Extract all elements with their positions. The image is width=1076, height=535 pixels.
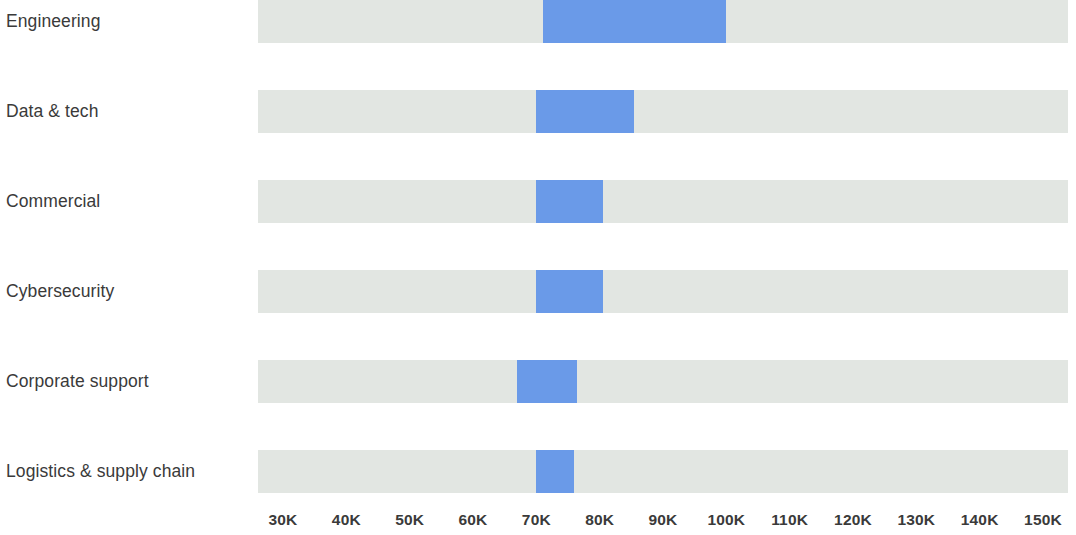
x-axis-tick-label: 90K: [648, 511, 677, 529]
x-axis-tick-label: 110K: [771, 511, 808, 529]
category-label: Data & tech: [6, 90, 99, 133]
x-axis-tick-label: 60K: [458, 511, 487, 529]
range-segment[interactable]: [543, 0, 727, 43]
range-segment[interactable]: [536, 90, 634, 133]
bar-row: Commercial: [0, 180, 1076, 270]
category-label: Commercial: [6, 180, 100, 223]
category-label: Engineering: [6, 0, 101, 43]
range-segment[interactable]: [536, 450, 574, 493]
range-segment[interactable]: [536, 180, 603, 223]
bar-track: [258, 450, 1068, 493]
category-label: Cybersecurity: [6, 270, 114, 313]
range-segment[interactable]: [517, 360, 577, 403]
range-bar-chart: EngineeringData & techCommercialCybersec…: [0, 0, 1076, 535]
category-label: Corporate support: [6, 360, 149, 403]
x-axis-tick-label: 50K: [395, 511, 424, 529]
category-label: Logistics & supply chain: [6, 450, 195, 493]
bar-track: [258, 0, 1068, 43]
x-axis-tick-label: 40K: [332, 511, 361, 529]
bar-row: Corporate support: [0, 360, 1076, 450]
bar-track: [258, 360, 1068, 403]
chart-plot-area: EngineeringData & techCommercialCybersec…: [0, 0, 1076, 500]
bar-track: [258, 90, 1068, 133]
bar-row: Engineering: [0, 0, 1076, 90]
x-axis-tick-label: 150K: [1024, 511, 1062, 529]
x-axis-tick-label: 80K: [585, 511, 614, 529]
x-axis-tick-label: 70K: [522, 511, 551, 529]
x-axis-tick-label: 30K: [268, 511, 297, 529]
x-axis-tick-label: 130K: [897, 511, 935, 529]
bar-row: Data & tech: [0, 90, 1076, 180]
x-axis-tick-label: 100K: [707, 511, 745, 529]
x-axis: 30K40K50K60K70K80K90K100K110K120K130K140…: [0, 500, 1076, 535]
x-axis-tick-label: 140K: [961, 511, 999, 529]
bar-track: [258, 270, 1068, 313]
x-axis-tick-label: 120K: [834, 511, 872, 529]
bar-track: [258, 180, 1068, 223]
range-segment[interactable]: [536, 270, 603, 313]
bar-row: Cybersecurity: [0, 270, 1076, 360]
